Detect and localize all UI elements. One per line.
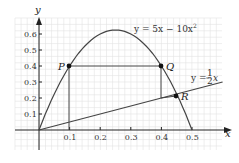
point-r <box>174 94 179 99</box>
svg-text:0.6: 0.6 <box>24 30 37 39</box>
label-q: Q <box>166 61 174 72</box>
line-equation-den: 2 <box>207 76 213 86</box>
label-r: R <box>180 91 189 102</box>
curve-equation: y = 5x − 10x2 <box>133 22 197 34</box>
svg-text:0.3: 0.3 <box>24 78 37 87</box>
x-axis-label: x <box>225 128 231 139</box>
svg-text:0.2: 0.2 <box>24 94 37 103</box>
svg-text:0.5: 0.5 <box>186 133 199 142</box>
label-p: P <box>57 61 65 72</box>
svg-text:0.3: 0.3 <box>125 133 138 142</box>
svg-text:0.1: 0.1 <box>24 110 37 119</box>
svg-text:0.4: 0.4 <box>24 62 37 71</box>
svg-text:0.2: 0.2 <box>94 133 107 142</box>
line-equation-x: x <box>213 73 218 83</box>
point-p <box>67 64 72 69</box>
svg-text:0.5: 0.5 <box>24 46 37 55</box>
svg-text:0.1: 0.1 <box>64 133 77 142</box>
svg-text:0.4: 0.4 <box>155 133 168 142</box>
point-q <box>159 64 164 69</box>
y-axis-label: y <box>34 4 41 15</box>
line-equation-prefix: y = <box>190 73 207 83</box>
graph: 0.10.20.30.40.50.10.20.30.40.50.6 P Q R … <box>0 0 239 163</box>
parabola-curve <box>39 30 192 130</box>
